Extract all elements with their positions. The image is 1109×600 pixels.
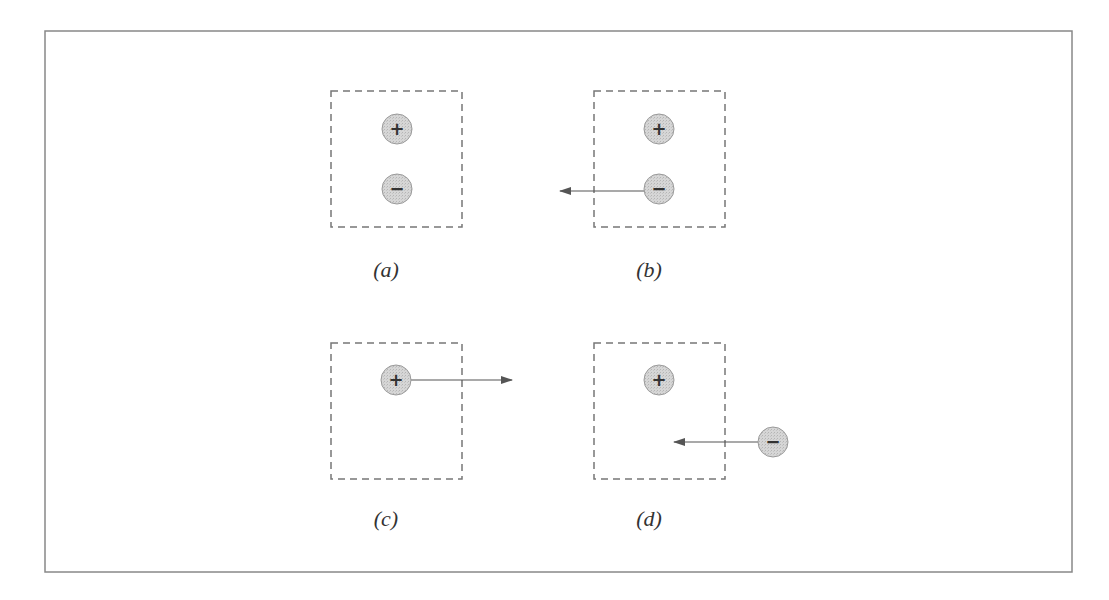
charge-sign: + bbox=[389, 118, 404, 139]
charge-sign: + bbox=[388, 369, 403, 390]
charge-sign: + bbox=[651, 369, 666, 390]
positive-charge-icon: + bbox=[644, 114, 674, 144]
panel-label-b: (b) bbox=[636, 257, 662, 282]
panel-d: +−(d) bbox=[594, 343, 788, 531]
panels-group: +−(a)+−(b)+(c)+−(d) bbox=[331, 91, 788, 531]
figure-frame bbox=[45, 31, 1072, 572]
negative-charge-icon: − bbox=[758, 427, 788, 457]
negative-charge-icon: − bbox=[382, 174, 412, 204]
dashed-region-box bbox=[331, 343, 462, 479]
positive-charge-icon: + bbox=[381, 365, 411, 395]
dashed-region-box bbox=[594, 91, 725, 227]
dashed-region-box bbox=[331, 91, 462, 227]
charge-diagram-figure: +−(a)+−(b)+(c)+−(d) bbox=[0, 0, 1109, 600]
charge-sign: − bbox=[765, 431, 780, 452]
panel-label-c: (c) bbox=[374, 506, 398, 531]
panel-a: +−(a) bbox=[331, 91, 462, 282]
negative-charge-icon: − bbox=[644, 174, 674, 204]
charge-sign: + bbox=[651, 118, 666, 139]
panel-b: +−(b) bbox=[560, 91, 725, 282]
panel-label-d: (d) bbox=[636, 506, 662, 531]
dashed-region-box bbox=[594, 343, 725, 479]
panel-c: +(c) bbox=[331, 343, 512, 531]
positive-charge-icon: + bbox=[382, 114, 412, 144]
positive-charge-icon: + bbox=[644, 365, 674, 395]
panel-label-a: (a) bbox=[373, 257, 399, 282]
charge-sign: − bbox=[651, 178, 666, 199]
charge-sign: − bbox=[389, 178, 404, 199]
